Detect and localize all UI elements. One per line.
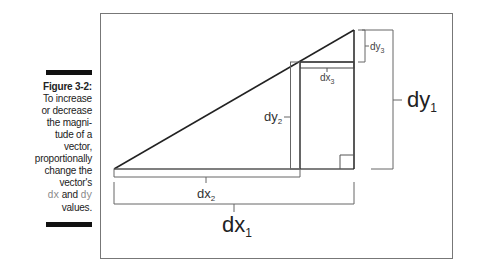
label-dy1: dy1 [407,87,437,115]
dx2-bracket [114,169,300,177]
dx3-bar [300,62,354,68]
dx1-bracket [114,182,354,204]
label-dy3: dy3 [370,41,385,54]
label-dx3: dx3 [320,72,335,85]
dy2-bar [291,62,300,169]
vector-diagram: dy3 dx3 dy2 dx2 dx1 dy1 [0,0,477,271]
hypotenuse [114,30,354,169]
dy3-bracket [358,30,365,62]
label-dx1: dx1 [222,212,252,240]
label-dx2: dx2 [197,186,216,203]
figure-frame [101,14,453,259]
label-dy2: dy2 [264,109,283,126]
right-angle-mark [340,155,354,169]
